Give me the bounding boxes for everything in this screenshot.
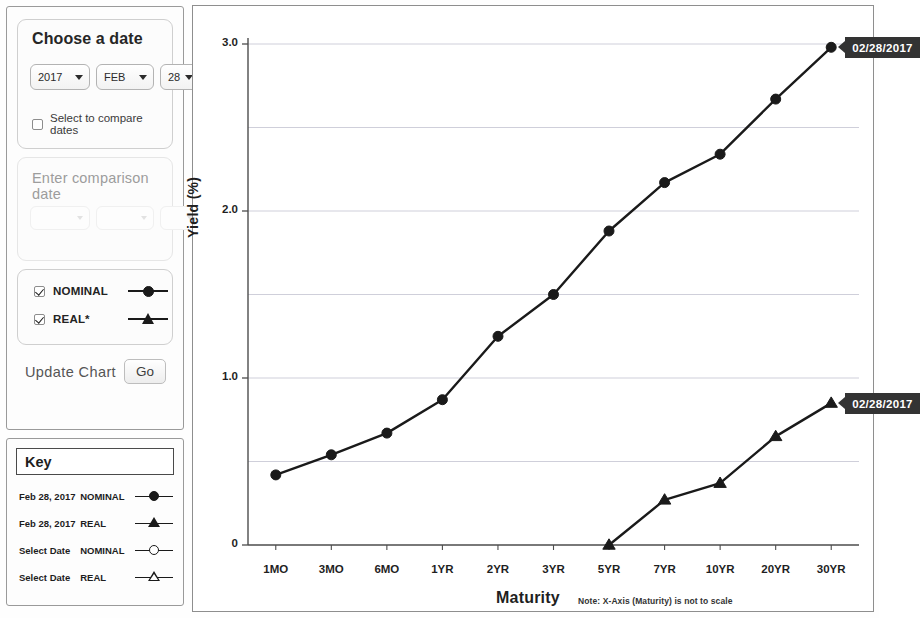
series-line-real: [609, 403, 831, 545]
year-select[interactable]: 2017: [30, 64, 90, 90]
callout-label: 02/28/2017: [852, 42, 913, 54]
month-select[interactable]: FEB: [96, 64, 154, 90]
year-select-value: 2017: [31, 71, 75, 83]
compare-dates-checkbox[interactable]: [32, 119, 43, 130]
day-select-value: 28: [161, 71, 185, 83]
comparison-date-card: Enter comparison date: [17, 157, 173, 261]
go-button[interactable]: Go: [124, 359, 166, 384]
choose-date-card: Choose a date 2017 FEB 28: [17, 19, 173, 149]
data-point-nominal: [660, 178, 670, 188]
x-axis-tick-label: 10YR: [693, 563, 747, 575]
yield-curve-plot: [193, 6, 875, 613]
key-title: Key: [17, 454, 52, 470]
update-chart-row: Update Chart Go: [25, 359, 166, 384]
chevron-down-icon: [75, 75, 83, 80]
series-toggle-real[interactable]: REAL*: [34, 312, 168, 326]
comparison-month-select: [96, 206, 154, 230]
chevron-down-icon: [141, 216, 147, 220]
real-marker-icon: [128, 312, 168, 326]
x-axis-tick-label: 3YR: [527, 563, 581, 575]
data-point-real: [770, 430, 782, 440]
y-axis-tick-label: 0: [204, 537, 238, 549]
chevron-down-icon: [77, 216, 83, 220]
data-point-callout: 02/28/2017: [845, 37, 920, 58]
data-point-real: [825, 397, 837, 407]
data-point-nominal: [604, 226, 614, 236]
series-line-nominal: [276, 47, 831, 475]
y-axis-tick-label: 2.0: [204, 203, 238, 215]
data-point-callout: 02/28/2017: [845, 393, 920, 414]
data-point-nominal: [715, 149, 725, 159]
data-point-nominal: [493, 331, 503, 341]
data-point-nominal: [382, 428, 392, 438]
left-control-column: Choose a date 2017 FEB 28: [6, 6, 184, 606]
data-point-nominal: [271, 470, 281, 480]
data-point-nominal: [771, 94, 781, 104]
compare-dates-label: Select to compare dates: [50, 112, 172, 136]
real-label: REAL*: [53, 313, 90, 325]
key-row-date: Select Date: [19, 572, 80, 583]
key-row-type: REAL: [80, 572, 135, 583]
update-chart-label: Update Chart: [25, 364, 116, 380]
comparison-date-title: Enter comparison date: [32, 170, 172, 202]
key-row-date: Feb 28, 2017: [19, 518, 80, 529]
data-point-nominal: [549, 290, 559, 300]
key-row: Select Date NOMINAL: [19, 537, 173, 564]
nominal-label: NOMINAL: [53, 285, 108, 297]
x-axis-tick-label: 3MO: [304, 563, 358, 575]
series-toggle-nominal[interactable]: NOMINAL: [34, 284, 168, 298]
month-select-value: FEB: [97, 71, 139, 83]
x-axis-tick-label: 2YR: [471, 563, 525, 575]
real-checkbox[interactable]: [34, 314, 45, 325]
key-row: Feb 28, 2017 REAL: [19, 510, 173, 537]
comparison-year-select: [30, 206, 90, 230]
x-axis-tick-label: 5YR: [582, 563, 636, 575]
key-panel: Key Feb 28, 2017 NOMINAL Feb 28, 2017 RE…: [6, 438, 184, 606]
chart-panel: Yield (%) Maturity Note: X-Axis (Maturit…: [192, 5, 874, 612]
filled-circle-marker-icon: [135, 490, 173, 503]
key-row-type: NOMINAL: [80, 545, 135, 556]
key-title-box: Key: [16, 448, 174, 475]
chevron-down-icon: [139, 75, 147, 80]
x-axis-tick-label: 1YR: [415, 563, 469, 575]
x-axis-tick-label: 30YR: [804, 563, 858, 575]
hollow-triangle-marker-icon: [135, 571, 173, 584]
key-row-date: Feb 28, 2017: [19, 491, 80, 502]
y-axis-tick-label: 3.0: [204, 36, 238, 48]
comparison-date-selectors: [30, 206, 200, 230]
key-row: Feb 28, 2017 NOMINAL: [19, 483, 173, 510]
key-list: Feb 28, 2017 NOMINAL Feb 28, 2017 REAL S…: [19, 483, 173, 591]
x-axis-tick-label: 1MO: [249, 563, 303, 575]
key-row-type: NOMINAL: [80, 491, 135, 502]
data-point-nominal: [826, 42, 836, 52]
nominal-checkbox[interactable]: [34, 286, 45, 297]
compare-dates-row[interactable]: Select to compare dates: [32, 112, 172, 136]
data-point-nominal: [326, 450, 336, 460]
x-axis-tick-label: 7YR: [638, 563, 692, 575]
filled-triangle-marker-icon: [135, 517, 173, 530]
key-row: Select Date REAL: [19, 564, 173, 591]
choose-date-title: Choose a date: [32, 30, 143, 48]
controls-panel: Choose a date 2017 FEB 28: [6, 6, 184, 430]
y-axis-tick-label: 1.0: [204, 370, 238, 382]
key-row-type: REAL: [80, 518, 135, 529]
x-axis-tick-label: 6MO: [360, 563, 414, 575]
data-point-nominal: [437, 395, 447, 405]
date-selectors: 2017 FEB 28: [30, 64, 200, 90]
nominal-marker-icon: [128, 284, 168, 298]
x-axis-tick-label: 20YR: [749, 563, 803, 575]
hollow-circle-marker-icon: [135, 544, 173, 557]
key-row-date: Select Date: [19, 545, 80, 556]
series-toggle-card: NOMINAL REAL*: [17, 269, 173, 345]
callout-label: 02/28/2017: [852, 398, 913, 410]
